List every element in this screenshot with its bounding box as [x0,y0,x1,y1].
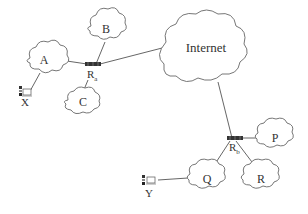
link-b-ra [96,42,105,64]
cloud-label: B [102,22,110,36]
cloud-label: P [272,131,279,145]
computer-tower-icon [19,86,22,89]
cloud-label: Internet [186,40,227,55]
cloud-b: B [88,8,127,40]
cloud-q: Q [187,159,225,188]
cloud-c: C [64,87,100,114]
host-x: X [19,86,32,108]
monitor-icon [147,177,155,183]
cloud-label: Q [203,172,212,186]
cloud-r: R [241,159,279,188]
host-y: Y [142,175,156,199]
cloud-internet: Internet [159,10,247,82]
link-ra-internet [100,47,166,64]
cloud-p: P [255,118,293,147]
host-label: X [21,96,29,108]
router-ra: Ra [85,62,101,83]
host-label: Y [145,187,153,199]
router-rb: Rb [227,136,243,156]
link-y-q [158,178,188,180]
computer-tower-icon [142,175,145,178]
network-diagram: A B C Internet P Q R Ra Rb [0,0,308,214]
cloud-label: R [257,172,265,186]
cloud-a: A [27,40,69,73]
router-label: Ra [87,68,98,83]
monitor-icon [23,89,31,95]
cloud-label: A [40,53,49,67]
cloud-label: C [79,95,87,109]
router-label: Rb [229,141,240,156]
link-internet-rb [218,82,232,138]
